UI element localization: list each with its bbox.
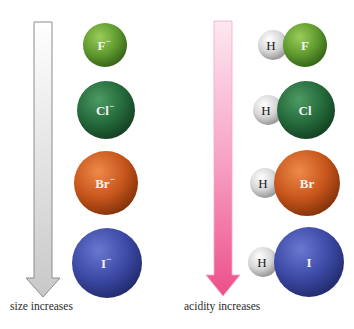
svg-text:H: H [261, 103, 270, 118]
svg-text:Cl: Cl [299, 103, 312, 118]
bromide-ion: Br− [74, 151, 138, 215]
svg-text:H: H [257, 255, 266, 270]
halide-diagram: F− Cl− Br− I− H F H Cl H Br H I [0, 0, 354, 329]
svg-text:H: H [266, 38, 275, 53]
svg-text:H: H [258, 176, 267, 191]
fluoride-ion: F− [83, 23, 127, 67]
size-increases-label: size increases [10, 300, 73, 312]
hf-molecule: H F [258, 23, 327, 67]
size-increases-arrow [26, 22, 60, 297]
chloride-ion: Cl− [77, 81, 135, 139]
hi-molecule: H I [248, 227, 344, 297]
hcl-molecule: H Cl [253, 81, 335, 139]
svg-text:I: I [306, 255, 311, 270]
hbr-molecule: H Br [250, 150, 340, 216]
svg-text:F: F [301, 38, 309, 53]
acidity-increases-label: acidity increases [184, 300, 260, 312]
svg-text:Br: Br [300, 176, 315, 191]
iodide-ion: I− [72, 228, 142, 298]
acidity-increases-arrow [206, 21, 240, 296]
